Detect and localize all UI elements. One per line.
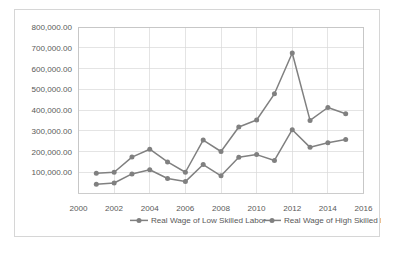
series-data-point bbox=[308, 145, 313, 150]
x-axis-tick-label: 2004 bbox=[141, 204, 160, 213]
series-data-point bbox=[290, 50, 295, 55]
x-axis-tick-labels: 200020022004200620082010201220142016 bbox=[69, 204, 373, 213]
x-axis-tick-label: 2000 bbox=[69, 204, 88, 213]
series-data-point bbox=[272, 91, 277, 96]
series-data-point bbox=[94, 182, 99, 187]
legend-item-label: Real Wage of Low Skilled Labor bbox=[151, 216, 266, 225]
series-data-point bbox=[147, 167, 152, 172]
series-data-point bbox=[112, 181, 117, 186]
series-data-point bbox=[183, 170, 188, 175]
series-data-point bbox=[165, 159, 170, 164]
y-axis-tick-labels: 100,000.00200,000.00300,000.00400,000.00… bbox=[31, 23, 72, 177]
y-axis-tick-label: 200,000.00 bbox=[31, 148, 72, 157]
y-axis-tick-label: 400,000.00 bbox=[31, 106, 72, 115]
series-data-point bbox=[147, 147, 152, 152]
legend-item: Real Wage of High Skilled Labor bbox=[263, 216, 381, 225]
x-axis-tick-label: 2008 bbox=[212, 204, 231, 213]
y-axis-tick-label: 800,000.00 bbox=[31, 23, 72, 32]
x-axis-tick-label: 2006 bbox=[176, 204, 195, 213]
x-axis-tick-label: 2016 bbox=[354, 204, 373, 213]
series-data-point bbox=[183, 179, 188, 184]
chart-legend: Real Wage of Low Skilled LaborReal Wage … bbox=[130, 216, 381, 225]
series-data-point bbox=[201, 162, 206, 167]
series-data-point bbox=[219, 149, 224, 154]
x-axis-tick-label: 2012 bbox=[283, 204, 302, 213]
legend-item: Real Wage of Low Skilled Labor bbox=[130, 216, 266, 225]
y-axis-tick-label: 100,000.00 bbox=[31, 168, 72, 177]
series-data-point bbox=[343, 137, 348, 142]
series-data-point bbox=[236, 125, 241, 130]
line-chart-plot: 100,000.00200,000.00300,000.00400,000.00… bbox=[15, 10, 381, 238]
x-axis-tick-label: 2014 bbox=[319, 204, 338, 213]
series-data-point bbox=[201, 138, 206, 143]
series-data-point bbox=[129, 171, 134, 176]
series-data-point bbox=[272, 158, 277, 163]
series-data-point bbox=[219, 173, 224, 178]
series-data-point bbox=[325, 105, 330, 110]
series-data-point bbox=[290, 127, 295, 132]
x-axis-tick-label: 2002 bbox=[105, 204, 124, 213]
series-data-point bbox=[343, 111, 348, 116]
chart-figure: 100,000.00200,000.00300,000.00400,000.00… bbox=[14, 9, 380, 237]
y-axis-tick-label: 500,000.00 bbox=[31, 85, 72, 94]
series-data-point bbox=[325, 140, 330, 145]
y-axis-tick-label: 700,000.00 bbox=[31, 44, 72, 53]
gridlines bbox=[79, 27, 364, 193]
series-data-point bbox=[112, 170, 117, 175]
legend-item-label: Real Wage of High Skilled Labor bbox=[284, 216, 381, 225]
series-data-point bbox=[165, 176, 170, 181]
series-data-point bbox=[254, 152, 259, 157]
series-data-point bbox=[129, 155, 134, 160]
series-data-point bbox=[308, 118, 313, 123]
x-axis-tick-label: 2010 bbox=[248, 204, 267, 213]
y-axis-tick-label: 300,000.00 bbox=[31, 127, 72, 136]
series-data-point bbox=[254, 117, 259, 122]
y-axis-tick-label: 600,000.00 bbox=[31, 65, 72, 74]
series-data-point bbox=[236, 155, 241, 160]
legend-marker-swatch bbox=[270, 218, 275, 223]
series-data-point bbox=[94, 171, 99, 176]
legend-marker-swatch bbox=[137, 218, 142, 223]
